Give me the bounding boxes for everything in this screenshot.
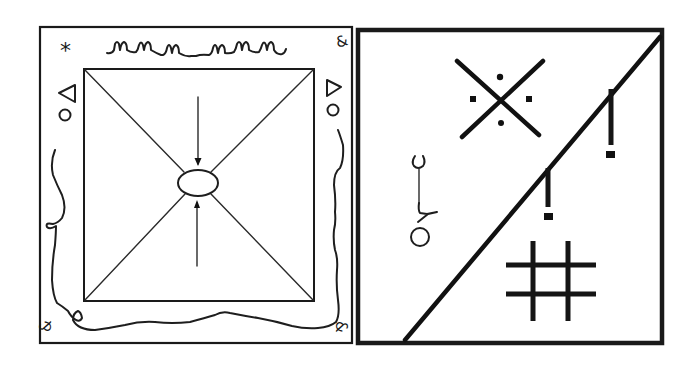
circle-right-icon bbox=[328, 105, 339, 116]
center-ellipse-icon bbox=[178, 170, 218, 196]
triangle-left-icon bbox=[59, 85, 75, 102]
corner-glyph-bottom-right: & bbox=[332, 321, 350, 333]
upward-arrow-icon bbox=[194, 200, 200, 266]
triangle-right-icon bbox=[327, 80, 341, 96]
diagonal-lines bbox=[85, 70, 313, 300]
left-panel: * & & & bbox=[37, 27, 352, 343]
circle-left-icon bbox=[60, 110, 71, 121]
corner-glyph-bottom-left: & bbox=[37, 320, 55, 332]
corner-glyph-top-right: & bbox=[334, 31, 350, 51]
downward-arrow-icon bbox=[195, 97, 202, 166]
symbol-figure: * & & & bbox=[0, 0, 693, 368]
asterisk-icon: * bbox=[60, 38, 71, 63]
left-outer-frame bbox=[40, 27, 352, 343]
x-cross-with-dots-icon bbox=[457, 61, 543, 137]
right-panel bbox=[358, 30, 662, 343]
wavy-top-line bbox=[107, 42, 286, 56]
key-symbol-icon bbox=[411, 156, 437, 246]
hash-grid-icon bbox=[506, 241, 596, 321]
